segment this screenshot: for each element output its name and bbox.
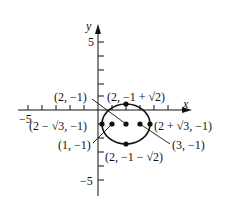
label-right-focus: (3, −1) [172,138,205,152]
y-ticks [98,42,104,180]
point-right-focus [137,121,142,126]
label-center: (2, −1) [54,90,87,104]
label-right-vertex: (2 + √3, −1) [154,119,212,133]
y-axis-label: y [85,19,92,33]
y-tick-label-neg5: −5 [80,174,93,188]
label-top-vertex: (2, −1 + √2) [107,90,165,104]
label-left-focus: (1, −1) [58,138,91,152]
point-left-focus [109,121,114,126]
y-axis-arrow-icon [95,24,101,34]
ellipse-graph: y x 5 −5 −5 (2, −1) (2, −1 + √2) (2, −1 … [0,0,237,205]
x-axis-label: x [182,97,189,111]
point-left-vertex [99,121,104,126]
y-tick-label-5: 5 [88,35,94,49]
label-bottom-vertex: (2, −1 − √2) [105,150,163,164]
point-center [123,121,128,126]
point-bottom-vertex [123,141,128,146]
label-left-vertex: (2 − √3, −1) [29,119,87,133]
point-right-vertex [147,121,152,126]
